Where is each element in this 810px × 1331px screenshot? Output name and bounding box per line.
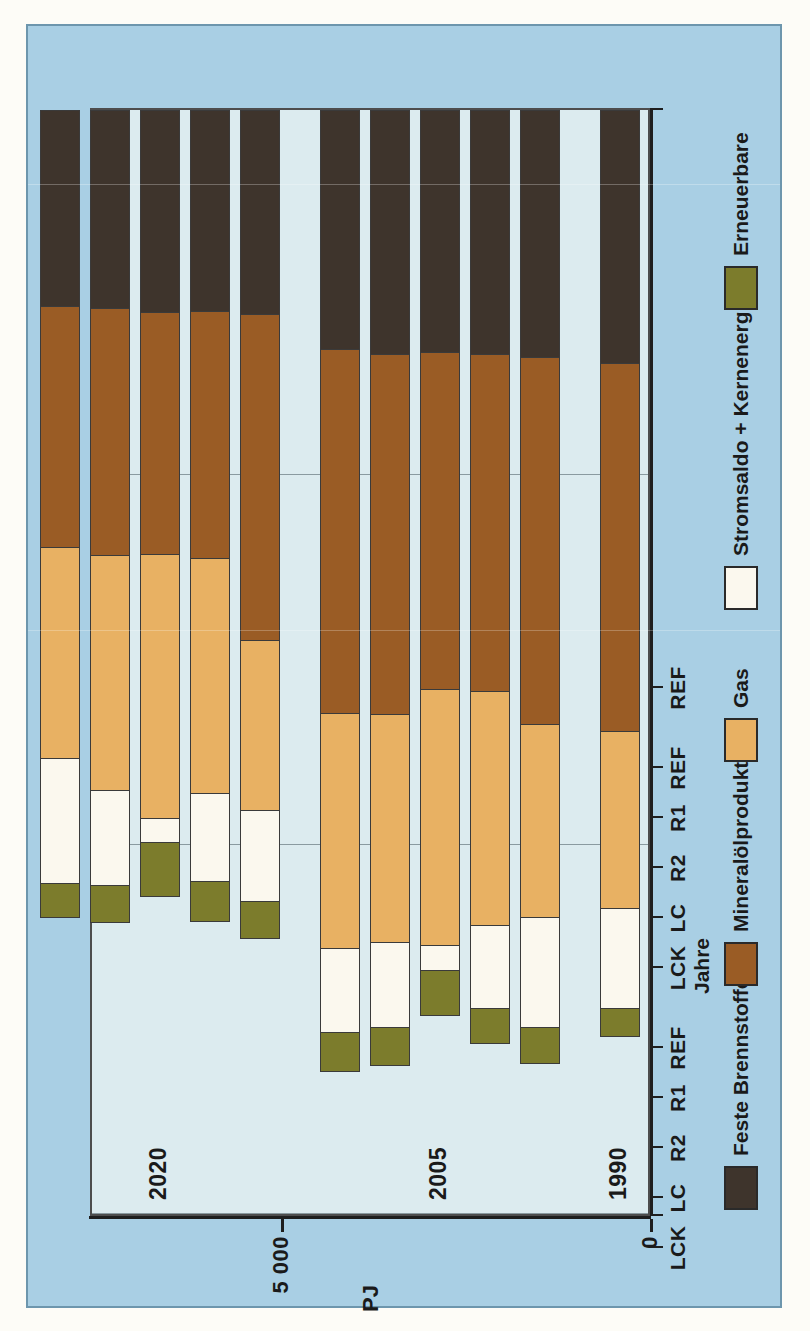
value-tick bbox=[650, 1219, 653, 1232]
bar-2005-REF bbox=[520, 110, 560, 1214]
category-tick bbox=[650, 866, 663, 868]
bar-segment bbox=[90, 110, 130, 308]
category-tick-label: REF bbox=[666, 746, 690, 790]
bar-segment bbox=[420, 110, 460, 352]
category-tick bbox=[650, 916, 663, 918]
legend: Feste BrennstoffeMineralölprodukteGasStr… bbox=[718, 110, 764, 1210]
bar-2020-LC bbox=[90, 110, 130, 1214]
bar-segment bbox=[190, 110, 230, 311]
bar-segment bbox=[520, 357, 560, 723]
bar-segment bbox=[320, 948, 360, 1031]
bar-segment bbox=[520, 110, 560, 357]
plot-area: 199020052020 bbox=[90, 108, 650, 1216]
bar-segment bbox=[600, 908, 640, 1008]
category-tick bbox=[650, 1046, 663, 1048]
legend-item-1: Mineralölprodukte bbox=[724, 750, 758, 986]
category-tick bbox=[650, 816, 663, 818]
bar-segment bbox=[240, 640, 280, 810]
bar-segment bbox=[240, 901, 280, 939]
value-tick bbox=[281, 1219, 284, 1232]
bar-segment bbox=[420, 970, 460, 1016]
legend-swatch bbox=[724, 1166, 758, 1210]
bar-segment bbox=[40, 758, 80, 884]
bar-segment bbox=[320, 1032, 360, 1073]
bar-segment bbox=[40, 883, 80, 918]
category-tick-label: LCK bbox=[666, 1226, 690, 1271]
bar-segment bbox=[470, 925, 510, 1008]
bar-segment bbox=[420, 352, 460, 689]
category-tick-label: R2 bbox=[666, 854, 690, 882]
value-axis-spine bbox=[89, 1216, 651, 1219]
bar-2005-R1 bbox=[470, 110, 510, 1214]
bar-segment bbox=[40, 306, 80, 547]
legend-label: Gas bbox=[729, 668, 753, 708]
bar-segment bbox=[140, 842, 180, 897]
category-tick bbox=[650, 1096, 663, 1098]
category-tick bbox=[650, 1146, 663, 1148]
category-tick-label: R1 bbox=[666, 804, 690, 832]
bar-segment bbox=[520, 917, 560, 1027]
category-axis-title: Jahre bbox=[690, 938, 714, 994]
bar-segment bbox=[470, 691, 510, 926]
bar-segment bbox=[90, 885, 130, 923]
bar-segment bbox=[520, 724, 560, 917]
bar-segment bbox=[140, 312, 180, 554]
bar-2005-LCK bbox=[320, 110, 360, 1214]
bar-segment bbox=[90, 308, 130, 555]
bar-series-container bbox=[92, 110, 648, 1214]
bar-2020-REF bbox=[240, 110, 280, 1214]
bar-segment bbox=[370, 714, 410, 942]
category-tick-label: LC bbox=[666, 904, 690, 933]
category-axis: REFREFR1R2LCLCKREFR1R2LCLCK bbox=[650, 108, 672, 1216]
category-axis-spine bbox=[650, 108, 653, 1216]
category-tick-label: REF bbox=[666, 1026, 690, 1070]
bar-segment bbox=[370, 110, 410, 354]
bar-segment bbox=[420, 689, 460, 945]
bar-segment bbox=[240, 110, 280, 314]
bar-segment bbox=[190, 881, 230, 922]
category-tick bbox=[650, 966, 663, 968]
category-tick-label: R2 bbox=[666, 1134, 690, 1162]
bar-segment bbox=[40, 110, 80, 306]
bar-segment bbox=[470, 354, 510, 691]
legend-item-0: Feste Brennstoffe bbox=[724, 977, 758, 1210]
bar-segment bbox=[370, 942, 410, 1027]
bar-segment bbox=[320, 349, 360, 713]
value-tick-label: 0 bbox=[637, 1236, 663, 1249]
bar-segment bbox=[90, 555, 130, 790]
bar-segment bbox=[370, 354, 410, 714]
legend-item-2: Gas bbox=[724, 668, 758, 762]
value-axis: 05 00010 00015 000 bbox=[90, 1216, 650, 1254]
bar-segment bbox=[470, 1008, 510, 1043]
legend-swatch bbox=[724, 266, 758, 310]
legend-swatch bbox=[724, 566, 758, 610]
bar-2005-LC bbox=[370, 110, 410, 1214]
group-label-2020: 2020 bbox=[145, 1147, 172, 1200]
bar-segment bbox=[190, 558, 230, 794]
legend-label: Feste Brennstoffe bbox=[729, 977, 753, 1156]
bar-segment bbox=[470, 110, 510, 354]
figure-card: 199020052020 REFREFR1R2LCLCKREFR1R2LCLCK… bbox=[26, 24, 782, 1308]
legend-label: Mineralölprodukte bbox=[729, 750, 753, 932]
category-tick bbox=[650, 766, 663, 768]
group-label-2005: 2005 bbox=[425, 1147, 452, 1200]
legend-swatch bbox=[724, 718, 758, 762]
category-tick-label: LCK bbox=[666, 946, 690, 991]
bar-segment bbox=[140, 818, 180, 842]
bar-segment bbox=[520, 1027, 560, 1064]
bar-segment bbox=[140, 110, 180, 312]
legend-item-3: Stromsaldo + Kernenergie bbox=[724, 294, 758, 610]
bar-segment bbox=[190, 793, 230, 881]
bar-segment bbox=[420, 945, 460, 970]
bar-segment bbox=[40, 547, 80, 758]
category-tick bbox=[650, 686, 663, 688]
category-tick-label: REF bbox=[666, 666, 690, 710]
bar-segment bbox=[190, 311, 230, 558]
chart-stage: 199020052020 REFREFR1R2LCLCKREFR1R2LCLCK… bbox=[28, 26, 780, 1306]
legend-label: Erneuerbare bbox=[729, 132, 753, 256]
legend-label: Stromsaldo + Kernenergie bbox=[729, 294, 753, 556]
category-tick bbox=[650, 1196, 663, 1198]
bar-segment bbox=[370, 1027, 410, 1065]
category-tick-label: LC bbox=[666, 1184, 690, 1213]
bar-segment bbox=[600, 110, 640, 363]
